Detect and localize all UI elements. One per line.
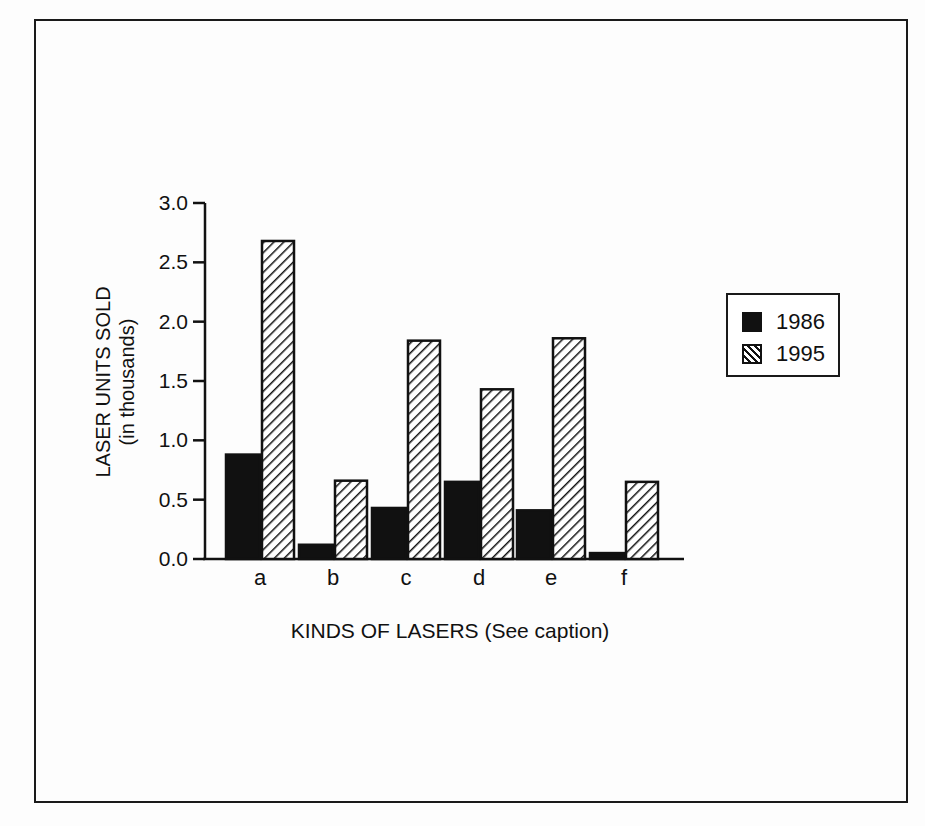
x-axis-label: KINDS OF LASERS (See caption) xyxy=(291,619,610,642)
x-tick-label: f xyxy=(621,565,628,590)
bar-d-1995 xyxy=(481,389,513,559)
y-tick-label: 1.5 xyxy=(159,369,188,392)
x-tick-label: b xyxy=(327,565,339,590)
bar-b-1986 xyxy=(299,545,333,559)
y-tick-label: 0.0 xyxy=(159,547,188,570)
bar-b-1995 xyxy=(335,481,367,559)
x-tick-label: a xyxy=(254,565,267,590)
bar-f-1995 xyxy=(626,482,658,559)
bar-chart: 0.00.51.01.52.02.53.0abcdef LASER UNITS … xyxy=(0,0,925,826)
y-tick-label: 2.0 xyxy=(159,310,188,333)
legend-label: 1995 xyxy=(776,341,825,367)
bar-d-1986 xyxy=(445,482,479,559)
bar-f-1986 xyxy=(590,553,624,559)
y-axis-sublabel: (in thousands) xyxy=(116,319,138,446)
hatched-swatch-icon xyxy=(742,344,762,364)
x-tick-label: c xyxy=(401,565,412,590)
legend-item-1986: 1986 xyxy=(742,309,825,335)
y-axis-label: LASER UNITS SOLD xyxy=(92,286,114,477)
bar-e-1995 xyxy=(553,338,585,559)
bar-c-1986 xyxy=(372,508,406,559)
y-tick-label: 3.0 xyxy=(159,191,188,214)
x-tick-label: d xyxy=(473,565,485,590)
bar-c-1995 xyxy=(408,341,440,559)
x-tick-label: e xyxy=(545,565,557,590)
y-tick-label: 1.0 xyxy=(159,428,188,451)
bar-e-1986 xyxy=(517,510,551,559)
bars xyxy=(226,241,658,559)
y-tick-label: 2.5 xyxy=(159,250,188,273)
legend-label: 1986 xyxy=(776,309,825,335)
solid-swatch-icon xyxy=(742,312,762,332)
legend: 1986 1995 xyxy=(726,293,840,377)
legend-item-1995: 1995 xyxy=(742,341,825,367)
bar-a-1986 xyxy=(226,455,260,559)
y-tick-label: 0.5 xyxy=(159,488,188,511)
bar-a-1995 xyxy=(262,241,294,559)
